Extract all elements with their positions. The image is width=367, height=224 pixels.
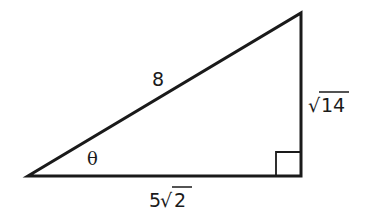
horizontal-leg-radical-sign: √ xyxy=(160,189,173,211)
vertical-leg-radicand: 14 xyxy=(321,94,345,116)
hypotenuse-label: 8 xyxy=(152,68,164,90)
horizontal-leg-label: 5 √ 2 xyxy=(149,187,192,211)
triangle xyxy=(28,13,301,176)
vertical-leg-label: √ 14 xyxy=(308,92,349,116)
right-angle-marker xyxy=(276,152,301,176)
right-triangle-diagram: 8 θ √ 14 5 √ 2 xyxy=(0,0,367,224)
vertical-leg-radical-sign: √ xyxy=(308,94,321,116)
angle-theta-label: θ xyxy=(87,148,98,169)
horizontal-leg-radicand: 2 xyxy=(174,189,186,211)
